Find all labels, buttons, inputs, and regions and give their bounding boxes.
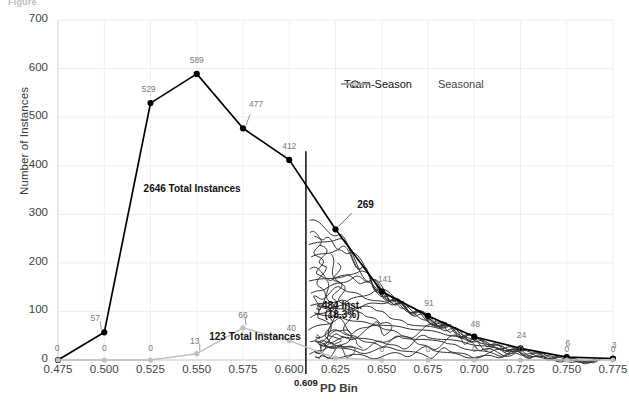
y-axis-label: Number of Instances <box>18 71 30 211</box>
data-label-team-season: 57 <box>91 313 100 323</box>
seasonal-total: 123 Total Instances <box>209 331 301 343</box>
cutoff-tick-label: 0.609 <box>276 377 336 388</box>
data-label-team-season: 24 <box>517 330 526 340</box>
data-label-team-season: 477 <box>249 99 263 109</box>
data-label-seasonal: 0 <box>611 344 616 354</box>
data-label-seasonal: 0 <box>518 344 523 354</box>
chart-legend: Team-SeasonSeasonal <box>340 78 484 90</box>
chart-figure: Figure Number of Instances PD Bin 010020… <box>0 0 629 404</box>
data-label-seasonal: 4 <box>331 342 336 352</box>
data-label-seasonal: 0 <box>379 344 384 354</box>
y-axis-tick-label: 700 <box>0 12 48 24</box>
shaded-region-percent: (18.3%) <box>324 309 359 321</box>
y-axis-tick-label: 200 <box>0 255 48 267</box>
legend-label: Seasonal <box>438 78 484 90</box>
y-axis-tick-label: 100 <box>0 303 48 315</box>
data-label-seasonal: 0 <box>564 344 569 354</box>
data-label-seasonal: 0 <box>148 343 153 353</box>
y-axis-tick-label: 600 <box>0 61 48 73</box>
data-label-seasonal: 0 <box>55 343 60 353</box>
data-label-team-season: 589 <box>190 55 204 65</box>
data-label-team-season: 91 <box>424 298 433 308</box>
chart-plot-svg <box>0 0 629 404</box>
team-season-total: 2646 Total Instances <box>144 183 241 195</box>
data-label-team-season: 269 <box>357 199 374 210</box>
data-label-seasonal: 13 <box>190 336 199 346</box>
data-label-seasonal: 66 <box>238 310 247 320</box>
y-axis-tick-label: 300 <box>0 206 48 218</box>
data-label-team-season: 141 <box>378 274 392 284</box>
data-label-seasonal: 0 <box>102 343 107 353</box>
data-label-team-season: 48 <box>471 319 480 329</box>
data-label-team-season: 412 <box>282 141 296 151</box>
data-label-seasonal: 0 <box>472 344 477 354</box>
data-label-seasonal: 0 <box>426 344 431 354</box>
data-label-team-season: 529 <box>141 84 155 94</box>
y-axis-tick-label: 400 <box>0 158 48 170</box>
y-axis-tick-label: 500 <box>0 109 48 121</box>
x-axis-tick-label: 0.775 <box>583 363 629 375</box>
legend-item-seasonal[interactable]: Seasonal <box>434 78 484 90</box>
